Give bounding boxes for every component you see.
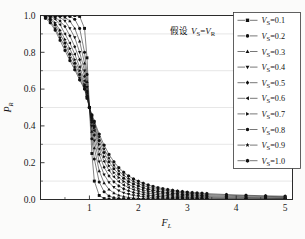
x-tick-label: 4 [234,203,239,213]
x-tick-label: 1 [87,203,92,213]
chart-legend: VS=0.1VS=0.2VS=0.3VS=0.4VS=0.5VS=0.6VS=0… [234,13,301,169]
legend-label: VS=0.9 [262,141,286,151]
x-tick-label: 5 [283,203,288,213]
legend-label: VS=0.4 [262,63,286,73]
y-tick-label: 0.4 [24,121,36,131]
legend-label: VS=0.7 [262,110,286,120]
y-tick-label: 0.2 [24,158,36,168]
chart-annotation: 假设VS=VR [170,26,216,37]
assumption-annotation: 假设VS=VR [170,26,216,37]
legend-label: VS=0.1 [262,16,286,26]
svg-text:假设VS=VR: 假设VS=VR [170,26,216,37]
chart-canvas: 0.00.20.40.60.81.012345 VS=0.1VS=0.2VS=0… [0,0,305,239]
legend-label: VS=1.0 [262,157,286,167]
y-axis-title: PR [2,102,14,113]
y-tick-label: 0.6 [24,84,36,94]
x-tick-label: 3 [185,203,190,213]
y-tick-label: 0.8 [24,48,36,58]
y-tick-label: 1.0 [24,11,36,21]
legend-label: VS=0.6 [262,94,286,104]
x-tick-label: 2 [136,203,141,213]
legend-label: VS=0.3 [262,48,286,58]
y-tick-label: 0.0 [24,195,36,205]
legend-label: VS=0.2 [262,32,286,42]
legend-label: VS=0.8 [262,126,286,136]
legend-label: VS=0.5 [262,79,286,89]
chart-figure: 0.00.20.40.60.81.012345 VS=0.1VS=0.2VS=0… [0,0,305,239]
x-axis-title: FL [161,217,172,229]
